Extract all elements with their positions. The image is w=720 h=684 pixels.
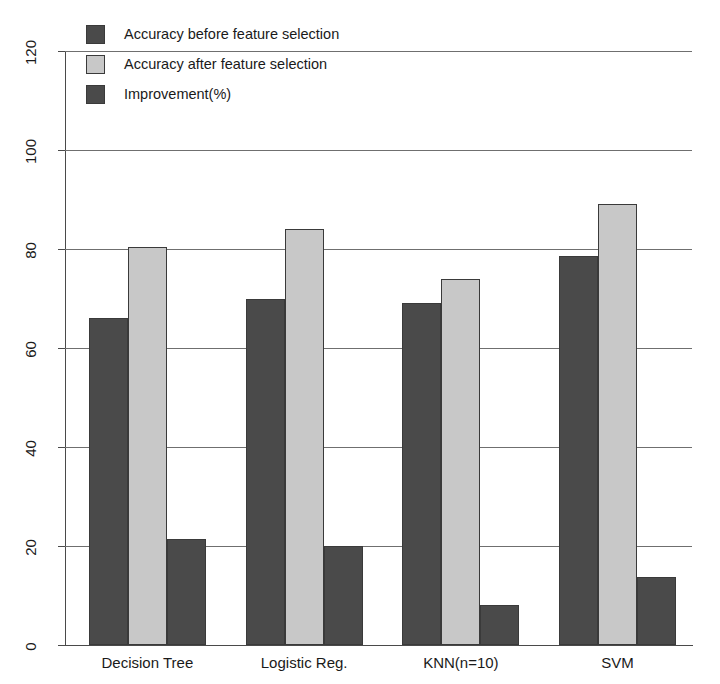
x-axis-category-label: SVM: [529, 654, 706, 671]
bar: [89, 318, 128, 645]
bar: [246, 299, 285, 646]
y-tick-mark: [58, 546, 65, 547]
legend-swatch-icon: [86, 55, 105, 74]
y-tick-label: 80: [8, 242, 52, 256]
legend-item: Improvement(%): [86, 82, 426, 112]
x-axis-category-label: Logistic Reg.: [216, 654, 393, 671]
bar: [324, 546, 363, 645]
x-axis-line: [65, 645, 693, 646]
bar: [441, 279, 480, 645]
x-axis-category-label: KNN(n=10): [372, 654, 549, 671]
y-tick-label: 120: [8, 44, 52, 58]
y-tick-mark: [58, 645, 65, 646]
bar: [637, 577, 676, 645]
bar: [285, 229, 324, 645]
legend-label: Accuracy after feature selection: [124, 55, 327, 74]
y-tick-label: 60: [8, 341, 52, 355]
bar: [480, 605, 519, 645]
legend-item: Accuracy before feature selection: [86, 22, 426, 52]
bar: [402, 303, 441, 645]
legend-item: Accuracy after feature selection: [86, 52, 426, 82]
legend-label: Accuracy before feature selection: [124, 25, 339, 44]
y-tick-label: 100: [8, 143, 52, 157]
y-tick-mark: [58, 447, 65, 448]
y-tick-label: 20: [8, 539, 52, 553]
legend: Accuracy before feature selectionAccurac…: [86, 22, 426, 112]
bar: [598, 204, 637, 645]
y-tick-mark: [58, 150, 65, 151]
y-tick-label: 0: [8, 638, 52, 652]
legend-label: Improvement(%): [124, 85, 231, 104]
x-axis-category-label: Decision Tree: [59, 654, 236, 671]
chart-title: [0, 0, 720, 1]
bar: [128, 247, 167, 645]
plot-area: [65, 51, 692, 645]
bar: [559, 256, 598, 645]
y-tick-mark: [58, 249, 65, 250]
y-tick-mark: [58, 348, 65, 349]
legend-swatch-icon: [86, 25, 105, 44]
legend-swatch-icon: [86, 85, 105, 104]
y-tick-label: 40: [8, 440, 52, 454]
bar-chart-figure: 020406080100120 Decision TreeLogistic Re…: [0, 0, 720, 684]
y-tick-mark: [58, 51, 65, 52]
bar: [167, 539, 206, 645]
